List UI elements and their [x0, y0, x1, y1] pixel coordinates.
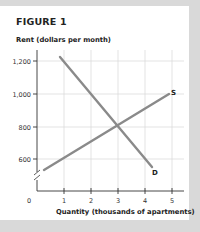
demand-label: D [152, 169, 158, 177]
svg-text:0: 0 [27, 197, 31, 205]
svg-text:1,200: 1,200 [12, 58, 31, 66]
svg-text:800: 800 [19, 124, 31, 132]
svg-text:1,000: 1,000 [12, 91, 31, 99]
svg-text:2: 2 [89, 197, 93, 205]
chart-plot: 1,200 1,000 800 600 0 1 2 3 4 5 D S [0, 0, 200, 232]
svg-text:600: 600 [19, 156, 31, 164]
svg-text:1: 1 [62, 197, 66, 205]
axes [33, 50, 184, 194]
svg-text:5: 5 [170, 197, 174, 205]
gridlines [37, 50, 184, 191]
y-tick-labels: 1,200 1,000 800 600 [12, 58, 31, 164]
svg-text:3: 3 [116, 197, 120, 205]
x-tick-labels: 0 1 2 3 4 5 [27, 197, 174, 205]
svg-text:4: 4 [143, 197, 147, 205]
supply-label: S [171, 89, 176, 97]
